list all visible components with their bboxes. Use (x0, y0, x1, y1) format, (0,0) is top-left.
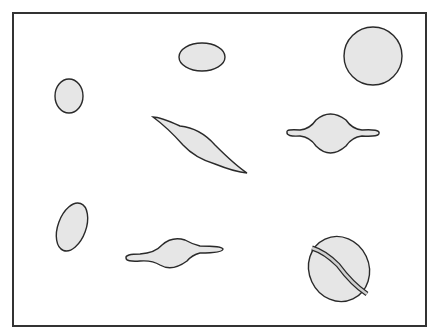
cell-oval-small-top (179, 43, 225, 71)
cell-oval-left (55, 79, 83, 113)
cell-diagram (0, 0, 436, 336)
cell-round-top-right (344, 27, 402, 85)
